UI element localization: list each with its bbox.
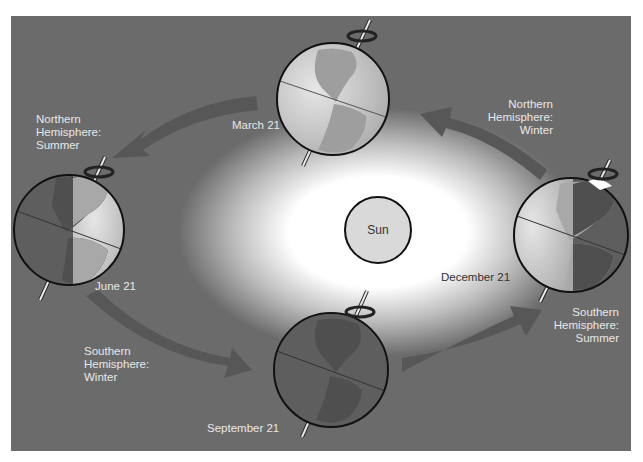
- svg-text:Summer: Summer: [36, 139, 80, 151]
- seasons-diagram: Sun: [0, 0, 643, 462]
- svg-text:Northern: Northern: [508, 98, 553, 110]
- sun-label: Sun: [367, 223, 388, 237]
- svg-text:Hemisphere:: Hemisphere:: [36, 126, 101, 138]
- date-label-june: June 21: [95, 280, 136, 292]
- svg-text:Hemisphere:: Hemisphere:: [488, 111, 553, 123]
- date-label-september: September 21: [207, 422, 279, 434]
- svg-text:Southern: Southern: [84, 345, 131, 357]
- svg-text:Winter: Winter: [520, 124, 553, 136]
- svg-text:Southern: Southern: [572, 306, 619, 318]
- svg-text:Northern: Northern: [36, 113, 81, 125]
- date-label-march: March 21: [232, 119, 280, 131]
- svg-text:Winter: Winter: [84, 371, 117, 383]
- svg-text:Hemisphere:: Hemisphere:: [554, 319, 619, 331]
- date-label-december: December 21: [441, 271, 510, 283]
- svg-text:Hemisphere:: Hemisphere:: [84, 358, 149, 370]
- svg-text:Summer: Summer: [576, 332, 620, 344]
- sun: Sun: [345, 197, 411, 263]
